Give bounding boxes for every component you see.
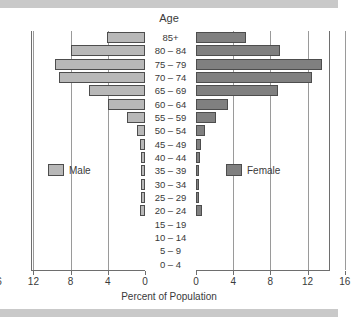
x-tick-label-left-16: 16 [0, 276, 8, 287]
age-group-label: 30 – 34 [145, 178, 196, 191]
age-group-label: 15 – 19 [145, 218, 196, 231]
x-tick-left-4 [108, 271, 109, 275]
x-tick-left-8 [71, 271, 72, 275]
x-tick-right-16 [345, 271, 346, 275]
legend-swatch-male [48, 164, 64, 176]
x-tick-label-left-8: 8 [59, 276, 83, 287]
age-group-label: 65 – 69 [145, 84, 196, 97]
bar-male [89, 85, 145, 96]
legend-item-female: Female [226, 164, 280, 176]
legend-label-male: Male [69, 165, 91, 176]
x-tick-left-12 [33, 271, 34, 275]
age-group-label: 20 – 24 [145, 204, 196, 217]
age-group-label: 75 – 79 [145, 58, 196, 71]
bar-female [196, 205, 202, 216]
age-group-label: 55 – 59 [145, 111, 196, 124]
x-tick-right-0 [196, 271, 197, 275]
age-group-label: 45 – 49 [145, 138, 196, 151]
age-group-label: 85+ [145, 31, 196, 44]
gridline-right-16 [345, 31, 346, 270]
x-tick-label-right-12: 12 [296, 276, 320, 287]
x-tick-right-8 [270, 271, 271, 275]
age-label-column: 0 – 45 – 910 – 1415 – 1920 – 2425 – 2930… [145, 31, 196, 271]
age-group-label: 0 – 4 [145, 258, 196, 271]
x-tick-label-left-4: 4 [96, 276, 120, 287]
bar-male [127, 112, 145, 123]
x-tick-left-0 [145, 271, 146, 275]
bar-female [196, 45, 280, 56]
bar-female [196, 179, 199, 190]
x-tick-label-right-4: 4 [221, 276, 245, 287]
bar-female [196, 112, 216, 123]
bar-female [196, 165, 199, 176]
age-group-label: 35 – 39 [145, 164, 196, 177]
bar-female [196, 152, 200, 163]
x-tick-label-right-0: 0 [184, 276, 208, 287]
age-group-label: 70 – 74 [145, 71, 196, 84]
x-tick-right-12 [308, 271, 309, 275]
bar-female [196, 72, 312, 83]
bar-female [196, 99, 228, 110]
x-tick-label-right-16: 16 [333, 276, 355, 287]
bar-male [55, 59, 145, 70]
legend-swatch-female [226, 164, 242, 176]
legend-label-female: Female [247, 165, 280, 176]
bar-male [137, 125, 145, 136]
bar-female [196, 85, 278, 96]
legend-item-male: Male [48, 164, 91, 176]
age-group-label: 40 – 44 [145, 151, 196, 164]
age-group-label: 25 – 29 [145, 191, 196, 204]
x-axis-label: Percent of Population [0, 291, 338, 302]
x-tick-label-left-12: 12 [21, 276, 45, 287]
plot-area: 0 – 45 – 910 – 1415 – 1920 – 2425 – 2930… [31, 31, 330, 271]
age-group-label: 50 – 54 [145, 124, 196, 137]
age-group-label: 80 – 84 [145, 44, 196, 57]
age-group-label: 60 – 64 [145, 98, 196, 111]
x-tick-right-4 [233, 271, 234, 275]
bar-female [196, 125, 205, 136]
x-tick-label-right-8: 8 [258, 276, 282, 287]
chart-title: Age [0, 12, 338, 24]
age-group-label: 5 – 9 [145, 244, 196, 257]
age-group-label: 10 – 14 [145, 231, 196, 244]
bar-male [107, 32, 145, 43]
x-tick-label-left-0: 0 [133, 276, 157, 287]
bar-female [196, 59, 322, 70]
bar-male [71, 45, 145, 56]
bar-female [196, 32, 246, 43]
bar-male [59, 72, 145, 83]
bar-female [196, 192, 199, 203]
bar-male [108, 99, 145, 110]
bar-female [196, 139, 201, 150]
